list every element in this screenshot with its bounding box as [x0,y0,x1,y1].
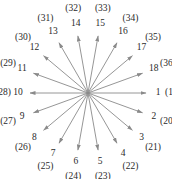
paired-number-label: (20) [160,117,172,127]
arrow-number-label: 5 [98,157,103,167]
arrow-8 [44,93,88,130]
arrow-17 [88,56,132,93]
arrow-group [30,36,146,150]
arrow-11 [34,73,89,93]
radial-arrow-diagram: 1(19)2(20)3(21)4(22)5(23)6(24)7(25)8(26)… [0,0,172,179]
paired-number-label: (24) [65,172,81,179]
paired-number-label: (27) [0,117,16,127]
arrow-number-label: 14 [71,19,81,29]
arrow-2 [88,93,143,113]
arrow-number-label: 2 [151,112,156,122]
arrow-number-label: 1 [156,88,161,98]
paired-number-label: (29) [0,59,16,69]
paired-number-label: (19) [165,88,172,98]
arrow-12 [44,56,88,93]
arrow-18 [88,73,143,93]
paired-number-label: (35) [145,34,161,44]
arrow-3 [88,93,132,130]
paired-number-label: (33) [95,5,111,15]
paired-number-label: (26) [15,143,31,153]
paired-number-label: (25) [38,162,54,172]
paired-number-label: (22) [123,162,139,172]
paired-number-label: (34) [123,15,139,25]
paired-number-label: (21) [145,143,161,153]
arrow-9 [34,93,89,113]
paired-number-label: (23) [95,172,111,179]
arrow-number-label: 16 [118,28,128,38]
paired-number-label: (32) [65,5,81,15]
arrow-number-label: 12 [30,43,40,53]
paired-number-label: (28) [0,88,11,98]
arrow-number-label: 4 [121,149,126,159]
arrow-number-label: 8 [32,133,37,143]
arrow-number-label: 6 [73,157,78,167]
arrow-number-label: 11 [18,64,27,74]
arrow-number-label: 3 [139,133,144,143]
paired-number-label: (31) [38,15,54,25]
arrow-number-label: 9 [20,112,25,122]
arrow-number-label: 15 [95,19,105,29]
arrow-number-label: 18 [149,64,159,74]
arrow-number-label: 7 [51,149,56,159]
arrow-number-label: 13 [48,28,58,38]
arrow-number-label: 10 [13,88,23,98]
paired-number-label: (30) [15,34,31,44]
paired-number-label: (36) [160,59,172,69]
arrow-number-label: 17 [137,43,147,53]
